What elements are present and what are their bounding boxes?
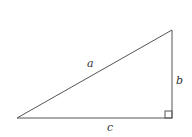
hypotenuse-a	[17, 30, 172, 118]
label-a: a	[87, 57, 94, 70]
right-angle-marker	[165, 111, 172, 118]
label-c: c	[107, 121, 113, 134]
label-b: b	[176, 74, 183, 87]
right-triangle-diagram: a b c	[0, 0, 192, 137]
